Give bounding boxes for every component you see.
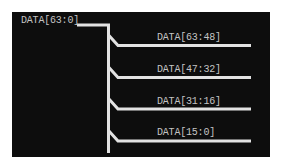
output-bus-label-3: DATA[31:16] [157,96,221,107]
output-bus-label-1: DATA[63:48] [157,32,221,43]
input-bus-wire [77,25,109,153]
output-bus-label-2: DATA[47:32] [157,64,221,75]
output-bus-label-4: DATA[15:0] [157,127,215,138]
input-bus-label: DATA[63:0] [21,15,79,26]
